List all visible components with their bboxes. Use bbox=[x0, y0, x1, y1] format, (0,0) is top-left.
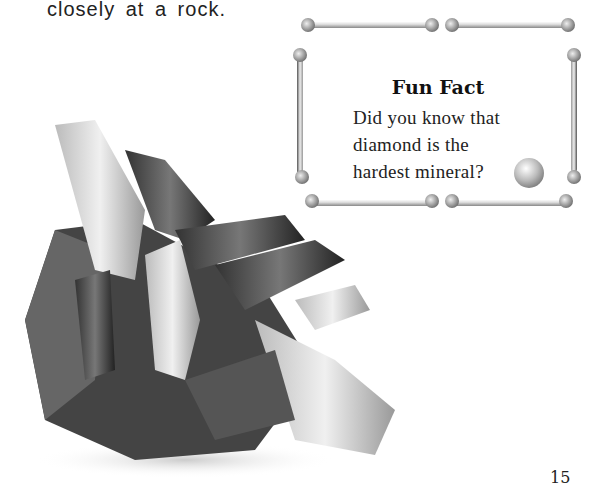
bone-bottom-right bbox=[453, 200, 569, 206]
bone-knob bbox=[445, 18, 459, 32]
page-number: 15 bbox=[550, 468, 570, 487]
bone-top-right bbox=[453, 22, 569, 28]
diamond-icon bbox=[514, 158, 544, 188]
bone-knob bbox=[567, 48, 581, 62]
bone-knob bbox=[425, 194, 439, 208]
bone-right bbox=[571, 54, 577, 172]
bone-knob bbox=[293, 48, 307, 62]
bone-knob bbox=[445, 194, 459, 208]
quartz-crystal-image bbox=[15, 120, 395, 480]
fun-fact-title: Fun Fact bbox=[293, 76, 583, 98]
bone-knob bbox=[559, 194, 573, 208]
intro-text: closely at a rock. bbox=[47, 0, 226, 21]
bone-knob bbox=[301, 18, 315, 32]
bone-knob bbox=[567, 170, 581, 184]
bone-knob bbox=[561, 18, 575, 32]
bone-top-left bbox=[311, 22, 431, 28]
bone-knob bbox=[425, 18, 439, 32]
